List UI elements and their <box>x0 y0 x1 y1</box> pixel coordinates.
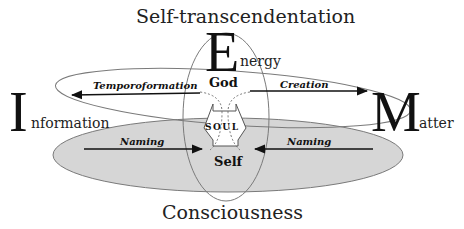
self-transcendentation-label: Self-transcendentation <box>136 5 355 27</box>
information-rest: nformation <box>31 115 110 131</box>
temporoformation-arrow <box>72 93 200 95</box>
matter-initial: M <box>371 84 421 140</box>
matter-rest: atter <box>419 115 454 131</box>
information-initial: I <box>9 84 28 140</box>
naming-left-label: Naming <box>120 136 164 147</box>
self-node: Self <box>214 154 242 169</box>
energy-initial: E <box>205 24 239 80</box>
soul-diagram: Self-transcendentation E nergy I nformat… <box>0 0 464 229</box>
soul-node: SOUL <box>205 122 240 132</box>
temporoformation-label: Temporoformation <box>93 80 198 91</box>
energy-rest: nergy <box>240 53 281 69</box>
creation-label: Creation <box>280 79 328 90</box>
god-node: God <box>209 75 238 90</box>
consciousness-label: Consciousness <box>162 201 303 223</box>
naming-right-label: Naming <box>287 136 331 147</box>
